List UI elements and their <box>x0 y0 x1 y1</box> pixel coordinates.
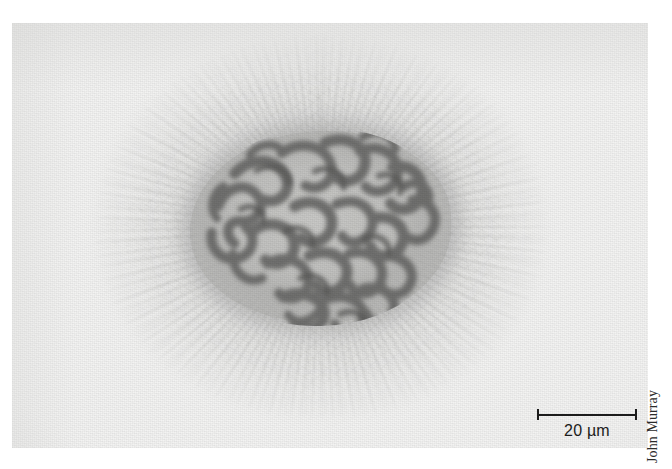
chromosomes-svg <box>162 101 480 353</box>
photo-credit-text: John Murray <box>645 390 661 463</box>
scale-bar: 20 µm <box>537 409 637 440</box>
scale-bar-line <box>537 409 637 420</box>
photo-credit: John Murray <box>652 343 670 463</box>
scale-bar-cap-left <box>537 409 539 420</box>
micrograph-plate: 20 µm <box>12 23 648 448</box>
page-bleed-through <box>205 449 455 463</box>
figure-page: 20 µm John Murray <box>0 0 672 469</box>
cell <box>86 27 556 427</box>
scale-bar-label: 20 µm <box>537 422 637 440</box>
scale-bar-cap-right <box>635 409 637 420</box>
nucleus <box>185 124 457 329</box>
